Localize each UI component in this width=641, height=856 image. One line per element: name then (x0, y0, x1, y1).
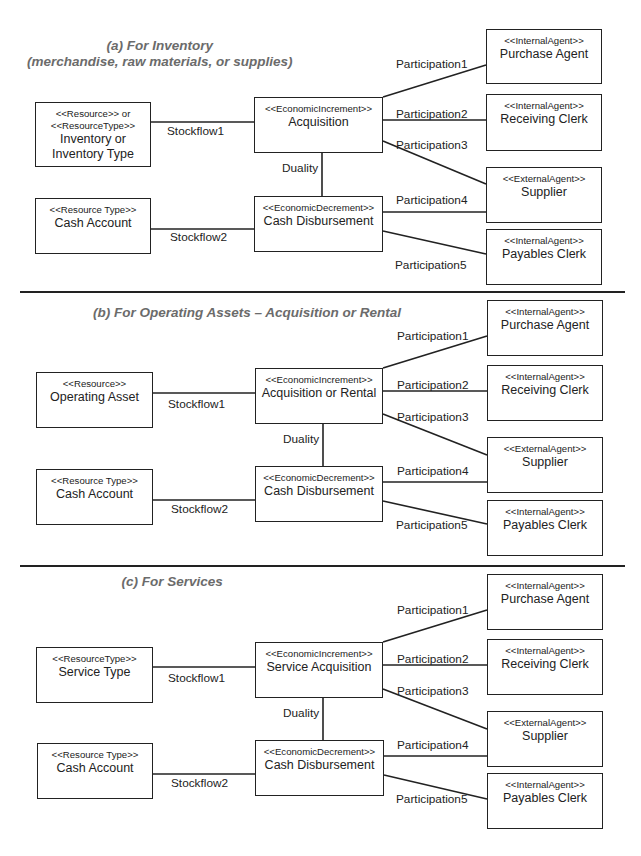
association-label: Participation5 (396, 518, 467, 532)
class-box-increment[interactable]: <<EconomicIncrement>>Acquisition or Rent… (255, 368, 383, 424)
association-label: Participation5 (396, 792, 467, 806)
association-label: Stockflow1 (168, 397, 225, 411)
class-name: Payables Clerk (488, 518, 602, 533)
association-label: Participation2 (397, 652, 468, 666)
class-box-resource[interactable]: <<ResourceType>>Service Type (36, 647, 153, 703)
association-label: Duality (283, 706, 319, 720)
association-label: Participation4 (396, 193, 467, 207)
section-title-line: (merchandise, raw materials, or supplies… (27, 54, 293, 70)
stereotype-label: <<Resource Type>> (38, 749, 152, 761)
section-title-line: (b) For Operating Assets – Acquisition o… (93, 305, 401, 321)
class-box-supplier[interactable]: <<ExternalAgent>>Supplier (486, 167, 602, 223)
class-box-receiving-clerk[interactable]: <<InternalAgent>>Receiving Clerk (486, 94, 602, 151)
association-label: Duality (282, 161, 318, 175)
class-box-resource[interactable]: <<Resource>> or <<ResourceType>>Inventor… (35, 102, 151, 167)
class-name: Supplier (487, 185, 601, 200)
stereotype-label: <<InternalAgent>> (488, 506, 602, 518)
class-box-increment[interactable]: <<EconomicIncrement>>Acquisition (254, 97, 383, 153)
association-label: Participation1 (397, 329, 468, 343)
stereotype-label: <<EconomicDecrement>> (255, 202, 382, 214)
stereotype-label: <<EconomicDecrement>> (256, 472, 382, 484)
class-box-increment[interactable]: <<EconomicIncrement>>Service Acquisition (255, 642, 383, 698)
section-separator-b (20, 565, 625, 567)
stereotype-label: <<InternalAgent>> (488, 580, 602, 592)
class-box-decrement[interactable]: <<EconomicDecrement>>Cash Disbursement (254, 196, 383, 252)
association-label: Participation3 (397, 410, 468, 424)
stereotype-label: <<Resource>> or <<ResourceType>> (36, 108, 150, 132)
class-name: Supplier (488, 455, 602, 470)
stereotype-label: <<EconomicIncrement>> (255, 103, 382, 115)
class-name: Purchase Agent (488, 592, 602, 607)
class-name: Purchase Agent (487, 47, 601, 62)
class-name: Cash Account (36, 216, 150, 231)
class-name: Cash Disbursement (255, 214, 382, 229)
stereotype-label: <<ExternalAgent>> (488, 717, 602, 729)
class-box-cash[interactable]: <<Resource Type>>Cash Account (36, 469, 153, 525)
association-label: Participation3 (397, 684, 468, 698)
class-box-payables-clerk[interactable]: <<InternalAgent>>Payables Clerk (486, 229, 602, 285)
class-box-payables-clerk[interactable]: <<InternalAgent>>Payables Clerk (487, 500, 603, 556)
association-label: Participation4 (397, 738, 468, 752)
class-box-cash[interactable]: <<Resource Type>>Cash Account (37, 743, 153, 799)
class-box-supplier[interactable]: <<ExternalAgent>>Supplier (487, 437, 603, 493)
association-label: Participation2 (396, 107, 467, 121)
class-name: Acquisition (255, 115, 382, 130)
class-name: Supplier (488, 729, 602, 744)
class-name: Payables Clerk (487, 247, 601, 262)
class-name: Purchase Agent (488, 318, 602, 333)
association-label: Participation4 (397, 464, 468, 478)
section-title-a: (a) For Inventory(merchandise, raw mater… (27, 38, 293, 70)
association-label: Stockflow2 (171, 776, 228, 790)
association-label: Participation3 (396, 138, 467, 152)
class-name: Service Type (37, 665, 152, 680)
association-label: Participation5 (395, 258, 466, 272)
class-name: Cash Disbursement (256, 758, 383, 773)
section-title-b: (b) For Operating Assets – Acquisition o… (93, 305, 401, 321)
class-name: Inventory or Inventory Type (36, 132, 150, 162)
section-title-c: (c) For Services (122, 574, 223, 590)
stereotype-label: <<InternalAgent>> (487, 235, 601, 247)
association-label: Participation1 (396, 57, 467, 71)
class-name: Receiving Clerk (488, 383, 602, 398)
association-label: Stockflow1 (167, 124, 224, 138)
stereotype-label: <<EconomicIncrement>> (256, 648, 382, 660)
stereotype-label: <<InternalAgent>> (488, 779, 602, 791)
stereotype-label: <<EconomicDecrement>> (256, 746, 383, 758)
class-name: Payables Clerk (488, 791, 602, 806)
association-label: Duality (283, 432, 319, 446)
association-line (383, 231, 486, 254)
association-label: Stockflow2 (171, 502, 228, 516)
stereotype-label: <<InternalAgent>> (487, 100, 601, 112)
class-name: Receiving Clerk (488, 657, 602, 672)
section-title-line: (c) For Services (122, 574, 223, 590)
class-box-supplier[interactable]: <<ExternalAgent>>Supplier (487, 711, 603, 767)
class-name: Acquisition or Rental (256, 386, 382, 401)
class-name: Cash Account (38, 761, 152, 776)
rea-diagram-canvas: (a) For Inventory(merchandise, raw mater… (0, 0, 641, 856)
stereotype-label: <<ResourceType>> (37, 653, 152, 665)
class-name: Cash Disbursement (256, 484, 382, 499)
class-box-decrement[interactable]: <<EconomicDecrement>>Cash Disbursement (255, 466, 383, 522)
class-box-cash[interactable]: <<Resource Type>>Cash Account (35, 198, 151, 254)
class-box-receiving-clerk[interactable]: <<InternalAgent>>Receiving Clerk (487, 639, 603, 695)
stereotype-label: <<ExternalAgent>> (487, 173, 601, 185)
stereotype-label: <<InternalAgent>> (488, 371, 602, 383)
class-box-payables-clerk[interactable]: <<InternalAgent>>Payables Clerk (487, 773, 603, 829)
class-box-resource[interactable]: <<Resource>>Operating Asset (36, 372, 153, 428)
stereotype-label: <<Resource Type>> (37, 475, 152, 487)
stereotype-label: <<Resource>> (37, 378, 152, 390)
class-name: Cash Account (37, 487, 152, 502)
stereotype-label: <<InternalAgent>> (487, 35, 601, 47)
association-label: Stockflow1 (168, 671, 225, 685)
class-box-purchase-agent[interactable]: <<InternalAgent>>Purchase Agent (487, 300, 603, 356)
class-box-receiving-clerk[interactable]: <<InternalAgent>>Receiving Clerk (487, 365, 603, 421)
class-box-decrement[interactable]: <<EconomicDecrement>>Cash Disbursement (255, 740, 384, 796)
class-name: Service Acquisition (256, 660, 382, 675)
class-box-purchase-agent[interactable]: <<InternalAgent>>Purchase Agent (486, 29, 602, 84)
class-name: Operating Asset (37, 390, 152, 405)
association-label: Participation1 (397, 603, 468, 617)
stereotype-label: <<InternalAgent>> (488, 645, 602, 657)
class-name: Receiving Clerk (487, 112, 601, 127)
association-label: Participation2 (397, 378, 468, 392)
class-box-purchase-agent[interactable]: <<InternalAgent>>Purchase Agent (487, 574, 603, 630)
